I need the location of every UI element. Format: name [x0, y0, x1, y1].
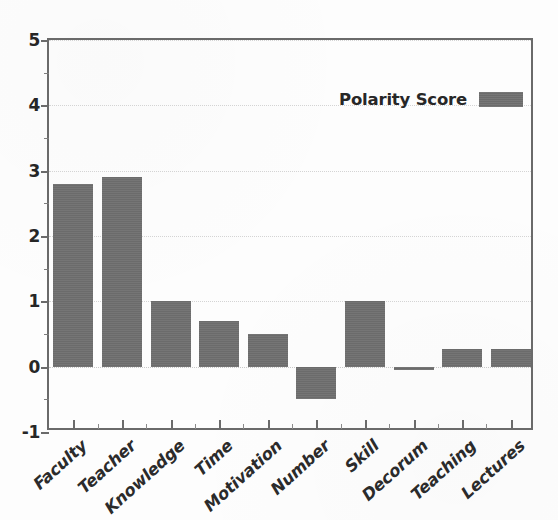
x-tick-minor-6 [389, 424, 390, 429]
y-tick--1 [41, 432, 49, 434]
bar-motivation [248, 334, 288, 367]
x-axis-label-time: Time [191, 436, 237, 480]
gridline-y-5 [49, 40, 531, 41]
y-tick-2 [41, 236, 49, 238]
x-tick-minor-7 [438, 424, 439, 429]
y-tick-minor-4 [44, 73, 49, 74]
plot-area: -1012345 Polarity Score [47, 38, 533, 430]
x-tick-knowledge [171, 420, 173, 429]
gridline-y-0 [49, 367, 531, 368]
bar-faculty [53, 184, 93, 367]
y-axis-label-2: 2 [28, 226, 40, 246]
x-tick-lectures [511, 420, 513, 429]
y-tick-minor-1 [44, 269, 49, 270]
bar-decorum [394, 367, 434, 370]
x-tick-minor-5 [341, 424, 342, 429]
x-tick-faculty [73, 420, 75, 429]
y-tick-minor-2 [44, 203, 49, 204]
y-axis-label--1: -1 [22, 422, 40, 442]
y-tick-4 [41, 105, 49, 107]
legend-swatch-polarity-score [479, 92, 523, 107]
y-tick-0 [41, 367, 49, 369]
y-tick-minor-0 [44, 334, 49, 335]
x-axis-label-motivation: Motivation [200, 436, 285, 516]
x-tick-teacher [122, 420, 124, 429]
x-tick-number [316, 420, 318, 429]
bar-time [199, 321, 239, 367]
x-axis-label-knowledge: Knowledge [100, 436, 188, 518]
x-tick-minor-0 [98, 424, 99, 429]
y-tick-3 [41, 171, 49, 173]
bar-lectures [491, 349, 531, 367]
x-tick-skill [365, 420, 367, 429]
x-tick-teaching [462, 420, 464, 429]
chart-page: -1012345 Polarity Score FacultyTeacherKn… [0, 0, 558, 520]
x-axis-label-faculty: Faculty [30, 436, 91, 494]
y-axis-label-4: 4 [28, 95, 40, 115]
y-axis-label-3: 3 [28, 161, 40, 181]
x-axis-label-lectures: Lectures [457, 436, 528, 503]
chart-legend: Polarity Score [339, 90, 523, 109]
x-tick-motivation [268, 420, 270, 429]
bar-teaching [442, 349, 482, 367]
x-tick-minor-2 [195, 424, 196, 429]
x-tick-decorum [414, 420, 416, 429]
y-axis-label-1: 1 [28, 291, 40, 311]
bar-skill [345, 301, 385, 366]
x-axis-label-number: Number [267, 436, 334, 499]
y-axis-label-5: 5 [28, 30, 40, 50]
y-axis-label-0: 0 [28, 357, 40, 377]
y-tick-1 [41, 301, 49, 303]
x-axis-label-teaching: Teaching [407, 436, 480, 504]
bar-teacher [102, 177, 142, 366]
x-tick-minor-1 [146, 424, 147, 429]
x-tick-minor-4 [292, 424, 293, 429]
x-axis-label-teacher: Teacher [74, 436, 139, 498]
x-axis-label-decorum: Decorum [358, 436, 431, 505]
x-tick-minor-8 [486, 424, 487, 429]
y-tick-minor-3 [44, 138, 49, 139]
y-tick-5 [41, 40, 49, 42]
gridline-y-3 [49, 171, 531, 172]
x-tick-minor-3 [243, 424, 244, 429]
legend-label: Polarity Score [339, 90, 467, 109]
x-tick-time [219, 420, 221, 429]
x-axis-label-skill: Skill [341, 436, 383, 476]
bar-knowledge [151, 301, 191, 366]
y-tick-minor--1 [44, 399, 49, 400]
bar-number [296, 367, 336, 400]
